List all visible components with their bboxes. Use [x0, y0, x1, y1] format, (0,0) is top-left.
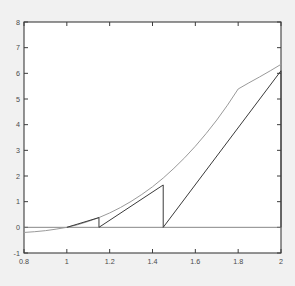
y-tick-label: -1: [14, 249, 20, 258]
y-tick-label: 1: [16, 197, 20, 206]
y-tick-label: 6: [16, 69, 20, 78]
axes-background: [24, 22, 281, 253]
x-tick-label: 0.8: [19, 257, 29, 266]
y-tick-label: 3: [16, 146, 20, 155]
y-tick-label: 0: [16, 223, 20, 232]
y-tick-label: 5: [16, 95, 20, 104]
plot-canvas: 0.811.21.41.61.82 -1012345678: [0, 0, 295, 286]
y-tick-label: 2: [16, 172, 20, 181]
x-tick-label: 1.8: [233, 257, 243, 266]
x-tick-label: 1.2: [105, 257, 115, 266]
x-tick-label: 1.6: [190, 257, 200, 266]
x-tick-label: 2: [279, 257, 283, 266]
y-tick-label: 4: [16, 120, 20, 129]
y-tick-label: 8: [16, 18, 20, 27]
y-tick-label: 7: [16, 43, 20, 52]
x-tick-label: 1.4: [148, 257, 158, 266]
figure-container: 0.811.21.41.61.82 -1012345678: [0, 0, 295, 286]
x-tick-label: 1: [65, 257, 69, 266]
